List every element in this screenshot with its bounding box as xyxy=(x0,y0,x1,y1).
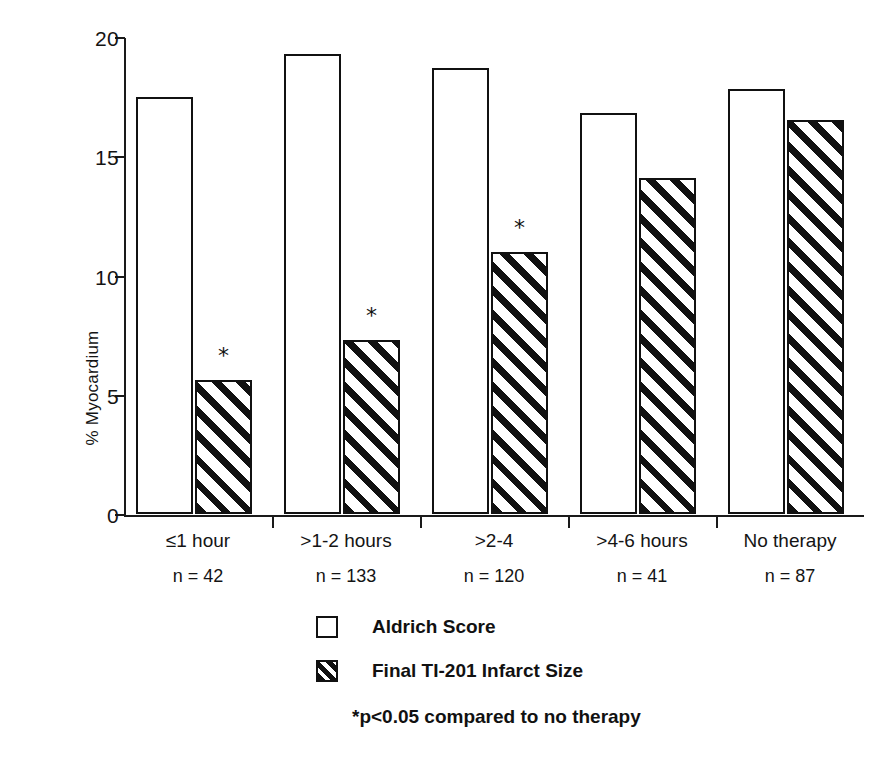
significance-star-2: * xyxy=(514,217,525,239)
y-axis-title: % Myocardium xyxy=(83,331,103,446)
plot-area: 20151050 *** xyxy=(124,38,864,516)
y-tick-label: 10 xyxy=(95,266,119,287)
legend-item-1: Final TI-201 Infarct Size xyxy=(316,652,736,690)
category-label-3: >4-6 hours xyxy=(596,530,687,552)
y-tick-label: 5 xyxy=(107,385,119,406)
category-label-0: ≤1 hour xyxy=(166,530,230,552)
bar-chart-figure: % Myocardium 20151050 *** ≤1 hourn = 42>… xyxy=(0,0,896,776)
x-tick-divider-4 xyxy=(716,516,718,528)
bar-aldrich-score-3 xyxy=(580,113,637,514)
x-axis-line xyxy=(124,515,864,517)
x-tick-divider-3 xyxy=(568,516,570,528)
bar-aldrich-score-2 xyxy=(432,68,489,514)
y-tick-label: 0 xyxy=(107,505,119,526)
legend-swatch-hatched xyxy=(316,660,338,682)
category-count-1: n = 133 xyxy=(316,566,377,587)
legend-swatch-open xyxy=(316,616,338,638)
bar-ti201-infarct-size-2 xyxy=(491,252,548,514)
x-tick-divider-2 xyxy=(420,516,422,528)
bar-ti201-infarct-size-3 xyxy=(639,178,696,514)
legend-label-1: Final TI-201 Infarct Size xyxy=(372,660,583,682)
category-count-0: n = 42 xyxy=(173,566,224,587)
category-count-3: n = 41 xyxy=(617,566,668,587)
y-tick-label: 20 xyxy=(95,28,119,49)
category-label-2: >2-4 xyxy=(475,530,514,552)
significance-star-1: * xyxy=(366,305,377,327)
bar-aldrich-score-1 xyxy=(284,54,341,514)
significance-footnote: *p<0.05 compared to no therapy xyxy=(352,706,641,728)
y-tick-label: 15 xyxy=(95,147,119,168)
category-count-2: n = 120 xyxy=(464,566,525,587)
category-count-4: n = 87 xyxy=(765,566,816,587)
y-axis-line xyxy=(124,38,126,517)
bar-aldrich-score-0 xyxy=(136,97,193,514)
legend: Aldrich ScoreFinal TI-201 Infarct Size xyxy=(316,608,736,696)
bar-ti201-infarct-size-4 xyxy=(787,120,844,514)
legend-label-0: Aldrich Score xyxy=(372,616,496,638)
bar-ti201-infarct-size-0 xyxy=(195,380,252,514)
bar-ti201-infarct-size-1 xyxy=(343,340,400,514)
significance-star-0: * xyxy=(218,345,229,367)
category-label-1: >1-2 hours xyxy=(300,530,391,552)
x-tick-divider-1 xyxy=(272,516,274,528)
bar-aldrich-score-4 xyxy=(728,89,785,514)
category-label-4: No therapy xyxy=(744,530,837,552)
legend-item-0: Aldrich Score xyxy=(316,608,736,646)
